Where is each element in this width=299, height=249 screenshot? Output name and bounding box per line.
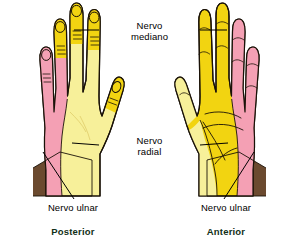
- label-nervo-radial-line1: Nervo: [137, 135, 163, 146]
- nerve-distribution-figure: Nervo mediano Nervo radial Nervo ulnar N…: [0, 0, 299, 249]
- label-nervo-radial-line2: radial: [138, 146, 162, 157]
- label-nervo-mediano-line2: mediano: [131, 31, 168, 42]
- view-label-anterior: Anterior: [166, 226, 286, 237]
- label-nervo-mediano-line1: Nervo: [137, 20, 163, 31]
- label-nervo-ulnar-anterior: Nervo ulnar: [166, 202, 286, 213]
- label-nervo-radial: Nervo radial: [100, 135, 199, 157]
- view-label-posterior: Posterior: [13, 226, 133, 237]
- label-nervo-mediano: Nervo mediano: [100, 20, 199, 42]
- label-nervo-ulnar-posterior: Nervo ulnar: [13, 202, 133, 213]
